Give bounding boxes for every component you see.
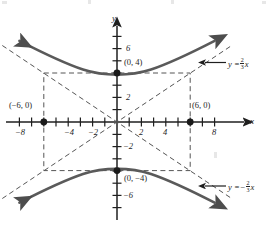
x-axis-label: x <box>250 117 254 126</box>
x-tick-label--2: −2 <box>88 128 98 137</box>
asymptote-pos-variable: x <box>245 59 249 69</box>
point-label-vertex-bottom: (0, −4) <box>124 174 147 183</box>
y-tick-label-2: 2 <box>126 93 130 102</box>
x-tick-label--4: −4 <box>64 128 74 137</box>
point-label-co-vertex-left: (−6, 0) <box>9 101 32 110</box>
point-label-co-vertex-right: (6, 0) <box>192 101 210 110</box>
y-tick-label--2: −2 <box>123 142 133 151</box>
asymptote-pos-lhs: y <box>228 59 232 69</box>
asymptote-neg-sign: − <box>240 182 246 192</box>
x-tick-label--8: −8 <box>15 128 25 137</box>
point-co-vertex-left <box>40 119 47 126</box>
x-tick-label-8: 8 <box>212 128 216 137</box>
asymptote-pos-denominator: 3 <box>240 64 244 70</box>
asymptote-equation-positive: y =23x <box>228 57 248 70</box>
y-tick-label-6: 6 <box>126 44 130 53</box>
graph-canvas <box>0 0 276 231</box>
asymptote-neg-variable: x <box>250 182 254 192</box>
asymptote-equation-negative: y =−23x <box>228 180 254 193</box>
asymptote-pos-equals: = <box>234 59 240 69</box>
y-axis-label: y <box>112 14 116 23</box>
x-tick-label-2: 2 <box>139 128 143 137</box>
point-vertex-bottom <box>114 167 121 174</box>
x-tick-label-4: 4 <box>163 128 167 137</box>
asymptote-pos-numerator: 2 <box>240 57 244 64</box>
point-vertex-top <box>114 70 121 77</box>
hyperbola-figure: −8 −4 −2 2 4 8 6 2 −2 −6 x y (0, 4) (0, … <box>0 0 276 231</box>
asymptote-neg-lhs: y <box>228 182 232 192</box>
point-label-vertex-top: (0, 4) <box>124 58 142 67</box>
asymptote-pos-fraction: 23 <box>240 57 244 70</box>
point-co-vertex-right <box>187 119 194 126</box>
y-tick-label--6: −6 <box>123 191 133 200</box>
